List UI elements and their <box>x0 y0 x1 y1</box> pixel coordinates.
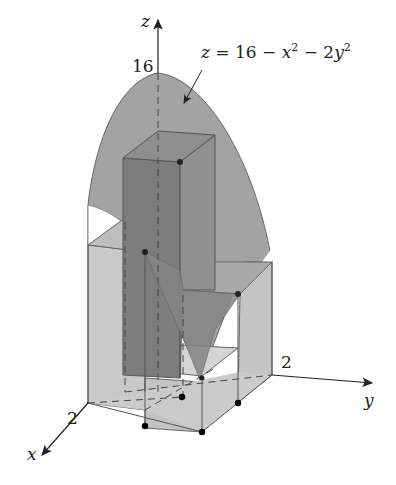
x-tick-2: 2 <box>67 408 78 428</box>
riemann-sum-3d-diagram: z 16 z = 16 − x2 − 2y2 2 y 2 x <box>0 0 396 485</box>
z-axis-label: z <box>140 11 151 31</box>
x-axis-label: x <box>27 444 37 464</box>
surface-equation-label: z = 16 − x2 − 2y2 <box>200 41 351 62</box>
z-tick-16: 16 <box>132 56 154 76</box>
y-tick-2: 2 <box>281 352 292 372</box>
y-axis <box>272 375 372 383</box>
x-axis <box>42 403 88 455</box>
y-axis-label: y <box>363 390 374 410</box>
